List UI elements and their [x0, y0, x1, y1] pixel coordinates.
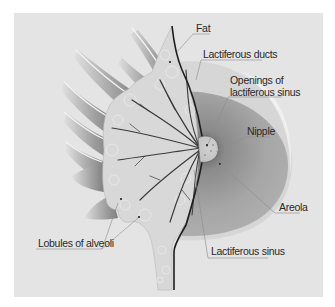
label-lactiferous-sinus: Lactiferous sinus — [211, 245, 285, 257]
label-fat: Fat — [196, 22, 210, 34]
label-lactiferous-ducts: Lactiferous ducts — [203, 48, 277, 60]
breast-anatomy-illustration — [0, 0, 335, 307]
label-lobules-of-alveoli: Lobules of alveoli — [38, 237, 114, 249]
label-openings-line1: Openings of — [230, 74, 300, 86]
label-areola: Areola — [279, 201, 308, 213]
label-openings-of-lactiferous-sinus: Openings of lactiferous sinus — [230, 74, 300, 98]
label-nipple: Nipple — [247, 125, 275, 137]
label-openings-line2: lactiferous sinus — [230, 86, 300, 98]
